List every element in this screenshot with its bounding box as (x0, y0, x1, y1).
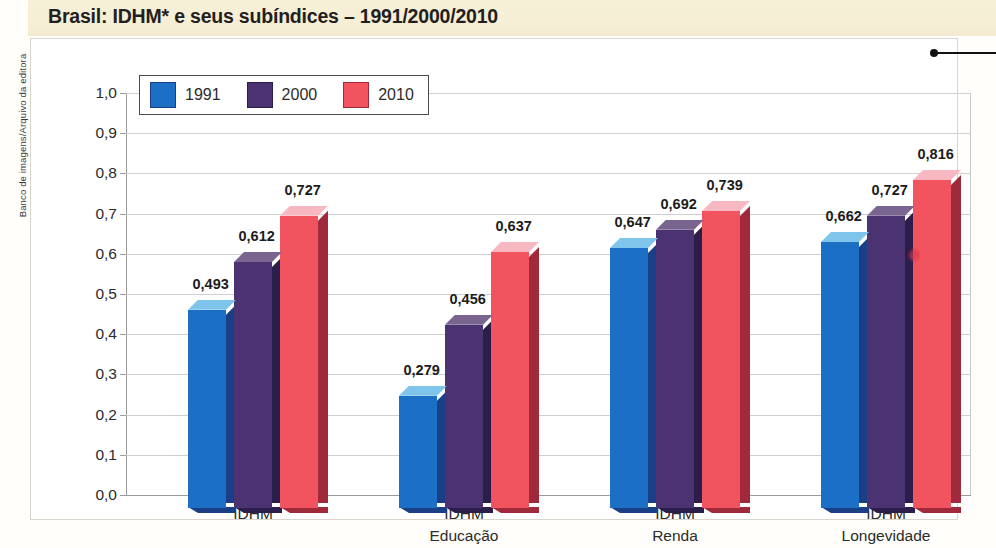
bar-front-face (234, 262, 272, 508)
bar-value-label: 0,727 (871, 182, 907, 198)
bar-value-label: 0,662 (825, 208, 861, 224)
bar-value-label: 0,637 (495, 218, 531, 234)
bar-value-label: 0,279 (403, 362, 439, 378)
y-axis-tick-mark (120, 294, 126, 295)
y-axis-tick-mark (120, 93, 126, 94)
scan-artifact-smudge (909, 249, 920, 261)
bar-side-face (740, 206, 750, 503)
legend-item-2010: 2010 (343, 82, 414, 108)
legend-item-1991: 1991 (150, 82, 221, 108)
y-axis-tick-mark (120, 334, 126, 335)
bar-side-face (529, 247, 539, 503)
legend-item-2000: 2000 (247, 82, 318, 108)
bar-front-face (821, 242, 859, 508)
y-axis-tick-mark (120, 254, 126, 255)
bar-value-label: 0,493 (192, 276, 228, 292)
bar: 0,727 (867, 216, 905, 508)
bar-value-label: 0,739 (706, 177, 742, 193)
y-axis-tick-mark (120, 455, 126, 456)
y-axis-tick-label: 0,2 (95, 406, 117, 424)
y-axis-tick-label: 0,3 (95, 365, 117, 383)
y-axis-tick-mark (120, 133, 126, 134)
bar: 0,279 (399, 396, 437, 508)
image-credit: Banco de imagens/Arquivo da editora (17, 21, 28, 251)
bar-value-label: 0,692 (660, 196, 696, 212)
bar-value-label: 0,647 (614, 214, 650, 230)
legend-swatch-icon (343, 82, 369, 108)
bar: 0,493 (188, 310, 226, 508)
bar-side-face (318, 211, 328, 503)
bar: 0,637 (491, 252, 529, 508)
bar-front-face (913, 180, 951, 508)
callout-line (936, 52, 996, 54)
y-axis-tick-mark (120, 495, 126, 496)
bar-front-face (188, 310, 226, 508)
bar-value-label: 0,727 (284, 182, 320, 198)
bar-front-face (445, 325, 483, 508)
bar-front-face (399, 396, 437, 508)
y-axis-tick-label: 0,8 (95, 164, 117, 182)
y-axis-tick-mark (120, 214, 126, 215)
chart-legend: 199120002010 (139, 75, 429, 115)
bar-side-face (951, 175, 961, 503)
bar-value-label: 0,456 (449, 291, 485, 307)
y-axis-tick-label: 1,0 (95, 84, 117, 102)
legend-label: 2000 (282, 86, 318, 104)
bar-front-face (610, 248, 648, 508)
y-axis-tick-label: 0,6 (95, 245, 117, 263)
y-axis-tick-mark (120, 173, 126, 174)
legend-swatch-icon (247, 82, 273, 108)
bar-front-face (702, 211, 740, 508)
y-axis-tick-label: 0,7 (95, 205, 117, 223)
page-title: Brasil: IDHM* e seus subíndices – 1991/2… (48, 5, 498, 28)
bar: 0,727 (280, 216, 318, 508)
bar-front-face (280, 216, 318, 508)
bar: 0,692 (656, 230, 694, 508)
y-axis-tick-label: 0,1 (95, 446, 117, 464)
bar: 0,662 (821, 242, 859, 508)
bar: 0,612 (234, 262, 272, 508)
bar-front-face (656, 230, 694, 508)
chart-frame: 1,00,90,80,70,60,50,40,30,20,10,0 0,4930… (30, 38, 958, 520)
bar-front-face (867, 216, 905, 508)
y-axis-tick-label: 0,5 (95, 285, 117, 303)
bar-value-label: 0,612 (238, 228, 274, 244)
x-axis-category-label-line: Longevidade (781, 525, 991, 547)
y-axis-tick-label: 0,4 (95, 325, 117, 343)
bar-value-label: 0,816 (917, 146, 953, 162)
bar: 0,456 (445, 325, 483, 508)
legend-swatch-icon (150, 82, 176, 108)
gridline (126, 133, 971, 134)
bar-front-face (491, 252, 529, 508)
y-axis-tick-label: 0,9 (95, 124, 117, 142)
legend-label: 2010 (378, 86, 414, 104)
bar: 0,739 (702, 211, 740, 508)
gridline (126, 173, 971, 174)
plot-area: 1,00,90,80,70,60,50,40,30,20,10,0 0,4930… (126, 93, 974, 508)
bar: 0,816 (913, 180, 951, 508)
legend-label: 1991 (185, 86, 221, 104)
y-axis-tick-label: 0,0 (95, 486, 117, 504)
y-axis-tick-mark (120, 415, 126, 416)
y-axis-tick-mark (120, 374, 126, 375)
callout-leader (930, 49, 996, 57)
footnote-text (34, 528, 734, 540)
bar: 0,647 (610, 248, 648, 508)
